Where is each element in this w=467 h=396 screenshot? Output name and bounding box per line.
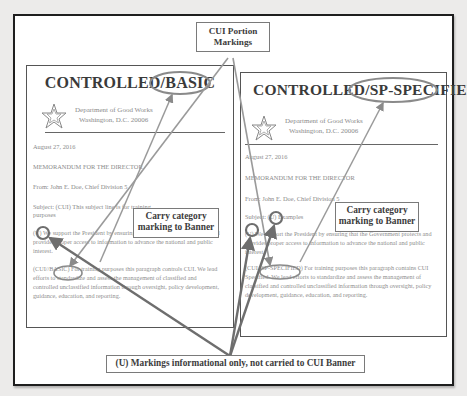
memo-title: MEMORANDUM FOR THE DIRECTOR xyxy=(33,163,143,170)
banner-controlled: CONTROLLED xyxy=(253,81,365,98)
callout-line-1: CUI Portion xyxy=(197,26,269,37)
paragraph-1-text: We support the President by ensuring tha… xyxy=(245,230,432,255)
star-seal-icon xyxy=(41,103,67,129)
callout-carry-category-right: Carry category marking to Banner xyxy=(335,202,419,232)
callout-line-2: marking to Banner xyxy=(134,222,218,233)
memo-from: From: John E. Doe, Chief Division 5 xyxy=(33,183,127,190)
memo-subject: Subject: (U) Examples xyxy=(245,213,303,220)
department-name: Department of Good Works xyxy=(285,117,363,127)
memo-date: August 27, 2016 xyxy=(245,153,287,160)
callout-carry-category-left: Carry category marking to Banner xyxy=(133,208,219,238)
star-seal-icon xyxy=(251,115,277,141)
callout-line-1: Carry category xyxy=(336,205,418,216)
cui-banner: CONTROLLED/SP-SPECIFIED xyxy=(253,81,446,99)
paragraph-1: (U) We support the President by ensuring… xyxy=(245,229,435,256)
subject-text: Examples xyxy=(278,213,303,220)
department-block: Department of Good Works Washington, D.C… xyxy=(75,106,153,125)
department-block: Department of Good Works Washington, D.C… xyxy=(285,117,363,136)
memo-date: August 27, 2016 xyxy=(33,143,75,150)
banner-category: /SP-SPECIFIED xyxy=(365,81,467,98)
cui-banner: CONTROLLED/BASIC xyxy=(27,74,233,92)
callout-line-1: Carry category xyxy=(134,211,218,222)
banner-controlled: CONTROLLED xyxy=(45,74,161,91)
callout-line-2: Markings xyxy=(197,37,269,48)
memo-title: MEMORANDUM FOR THE DIRECTOR xyxy=(245,174,355,181)
callout-u-markings-informational: (U) Markings informational only, not car… xyxy=(106,355,365,373)
portion-marking-u: (U) xyxy=(33,229,42,236)
portion-marking-cui-basic: (CUI//BASIC) xyxy=(33,265,69,272)
paragraph-2: (CUI//BASIC) For training purposes this … xyxy=(33,264,223,300)
document-basic: CONTROLLED/BASIC Department of Good Work… xyxy=(26,65,234,328)
portion-marking-u: (U) xyxy=(245,230,254,237)
subject-label: Subject: xyxy=(245,213,266,220)
memo-from: From: John E. Doe, Chief Division 5 xyxy=(245,195,339,202)
department-address: Washington, D.C. 20006 xyxy=(75,116,153,126)
header-rule xyxy=(245,144,438,145)
portion-marking-u-subject: (U) xyxy=(268,213,277,220)
banner-category: /BASIC xyxy=(161,74,216,91)
department-address: Washington, D.C. 20006 xyxy=(285,127,363,137)
portion-marking-cui-sp-specified: (CUI//SP-SPECIFIED) xyxy=(245,264,303,271)
paragraph-2: (CUI//SP-SPECIFIED) For training purpose… xyxy=(245,263,435,299)
callout-line-2: marking to Banner xyxy=(336,216,418,227)
header-rule xyxy=(45,132,225,133)
callout-cui-portion-markings: CUI Portion Markings xyxy=(196,22,270,52)
memo-subject-cont: purposes xyxy=(33,211,56,218)
department-name: Department of Good Works xyxy=(75,106,153,116)
